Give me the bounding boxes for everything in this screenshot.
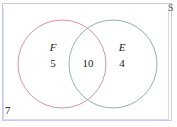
venn-diagram-figure: F 5 E 4 10 7 S bbox=[0, 0, 177, 127]
set-count-outside: 7 bbox=[5, 105, 21, 116]
set-label-E: E bbox=[113, 42, 131, 53]
corner-mark-glyph: S bbox=[168, 2, 177, 14]
set-count-F-only: 5 bbox=[44, 58, 62, 69]
set-count-E-only: 4 bbox=[113, 58, 131, 69]
set-count-intersection: 10 bbox=[76, 58, 100, 69]
set-label-F: F bbox=[44, 42, 62, 53]
